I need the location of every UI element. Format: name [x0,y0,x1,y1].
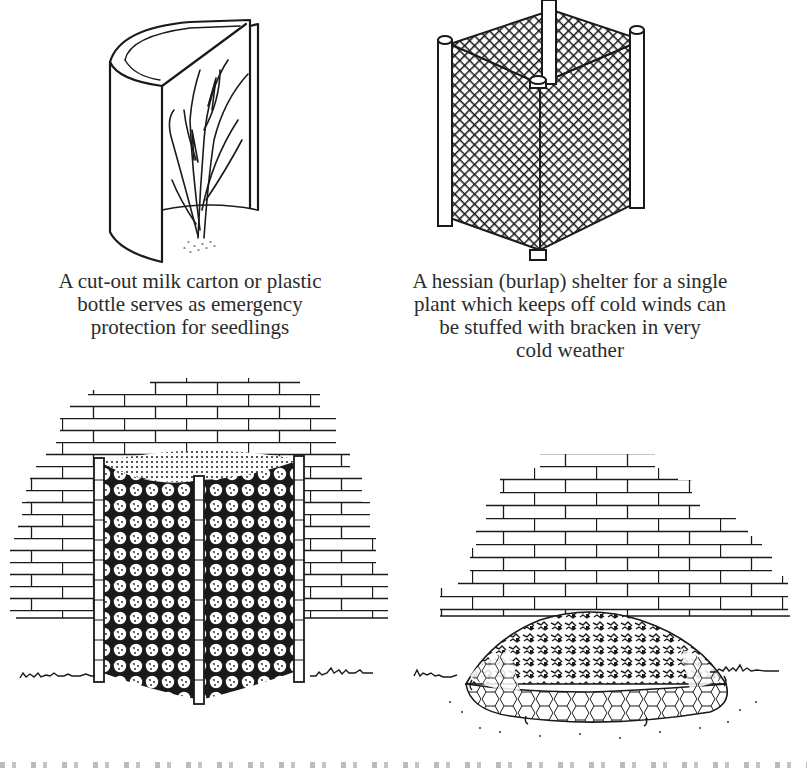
milk-carton-illustration [100,10,320,265]
cut-off-text-line [0,762,807,768]
hessian-shelter-caption: A hessian (burlap) shelter for a single … [360,270,780,362]
wire-mesh-enclosure-illustration [0,370,400,710]
milk-carton-caption: A cut-out milk carton or plastic bottle … [30,270,350,339]
caption-line: A cut-out milk carton or plastic [30,270,350,293]
caption-line: plant which keeps off cold winds can [360,293,780,316]
caption-line: be stuffed with bracken in very [360,316,780,339]
caption-line: protection for seedlings [30,316,350,339]
caption-line: cold weather [360,339,780,362]
mulch-mound-illustration [410,440,807,740]
hessian-shelter-illustration [430,0,660,262]
caption-line: A hessian (burlap) shelter for a single [360,270,780,293]
caption-line: bottle serves as emergency [30,293,350,316]
